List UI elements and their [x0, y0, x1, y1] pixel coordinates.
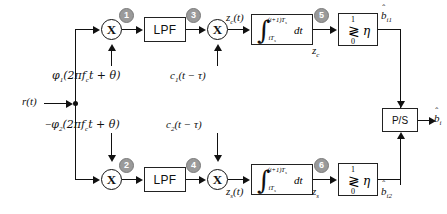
stage-marker-2: 2	[119, 158, 134, 173]
wire-cmp1-out	[378, 29, 400, 30]
arrow-ps-in-lower	[397, 132, 405, 139]
integ-upper-limit: (i+1)Ts	[268, 17, 287, 25]
code-upper-label: c1(t − τ)	[170, 70, 206, 84]
stage-marker-1: 1	[119, 8, 134, 23]
arrow-lower-mult2	[93, 176, 100, 184]
arrow-code2	[214, 155, 222, 162]
stage-marker-4: 4	[186, 158, 201, 173]
zc-label: zc	[312, 45, 319, 59]
wire-mult4-to-integ2	[228, 179, 244, 180]
junction-input-split	[73, 101, 78, 106]
wire-lpf1-to-mult3	[186, 29, 200, 30]
multiplier-4[interactable]: X	[207, 169, 228, 190]
integ-lower-block-upper-limit: (i+1)Ts	[268, 167, 287, 175]
multiplier-1[interactable]: X	[101, 19, 122, 40]
wire-mult3-to-integ1	[228, 29, 244, 30]
wire-lpf2-to-mult4	[186, 179, 200, 180]
wire-integ2-to-cmp2	[313, 179, 331, 180]
arrow-integ2-in	[243, 176, 250, 184]
wire-input	[44, 103, 66, 104]
wire-mult2-to-lpf2	[122, 179, 137, 180]
arrow-input	[66, 100, 73, 108]
arrow-integ1-in	[243, 26, 250, 34]
b-i1-label: ˆbi1	[381, 10, 392, 24]
stage-marker-3: 3	[186, 8, 201, 23]
zc-t-label: zc(t)	[226, 12, 244, 26]
stage-marker-6: 6	[314, 158, 329, 173]
wire-right-bus-lower	[400, 138, 401, 185]
code-lower-label: c2(t − τ)	[166, 119, 202, 133]
zs-t-label: zs(t)	[226, 186, 243, 200]
b-i2-label: ˆbi2	[381, 186, 392, 200]
arrow-mult3-in	[199, 26, 206, 34]
ps-block[interactable]: P/S	[382, 108, 418, 132]
multiplier-2[interactable]: X	[101, 169, 122, 190]
comparator-lower-expression: 1 ≷ 0 η	[348, 166, 370, 196]
integ-dt-upper: dt	[294, 24, 303, 36]
arrow-carrier1	[108, 44, 116, 51]
arrow-carrier2	[108, 155, 116, 162]
threshold-eta-lower: η	[363, 174, 370, 188]
arrow-cmp1-in	[330, 26, 337, 34]
stage-marker-5: 5	[314, 8, 329, 23]
integ-lower-block-lower-limit: iTs	[269, 185, 287, 193]
arrow-cmp2-in	[330, 176, 337, 184]
arrow-ps-in-upper	[397, 101, 405, 108]
threshold-eta-upper: η	[363, 24, 370, 38]
arrow-code1	[214, 44, 222, 51]
input-signal-label: r(t)	[22, 96, 37, 107]
wire-carrier2	[111, 133, 112, 155]
arrow-mult4-in	[199, 176, 206, 184]
wire-upper-to-mult1	[75, 29, 94, 30]
wire-code2	[217, 133, 218, 155]
carrier-upper-label: φ1(2πfct + θ)	[52, 70, 120, 84]
arrow-lpf2-in	[136, 176, 143, 184]
wire-carrier1	[111, 50, 112, 66]
multiplier-3[interactable]: X	[207, 19, 228, 40]
arrow-upper-mult1	[93, 26, 100, 34]
wire-integ1-to-cmp1	[313, 29, 331, 30]
arrow-lpf1-in	[136, 26, 143, 34]
carrier-lower-label: −φ2(2πfct + θ)	[45, 119, 120, 133]
integrator-lower-expression: ∫ (i+1)Ts iTs dt	[257, 167, 302, 193]
integrator-upper-expression: ∫ (i+1)Ts iTs dt	[257, 17, 302, 43]
b-i-output-label: ˆbi	[434, 113, 441, 127]
wire-lower-to-mult2	[75, 179, 94, 180]
wire-code1	[217, 50, 218, 66]
wire-mult1-to-lpf1	[122, 29, 137, 30]
lpf-upper-block[interactable]: LPF	[144, 17, 186, 42]
integ-lower-limit: iTs	[269, 35, 287, 43]
integ-dt-lower: dt	[294, 174, 303, 186]
lpf-lower-block[interactable]: LPF	[144, 167, 186, 192]
wire-right-bus-upper	[400, 29, 401, 108]
comparator-upper-expression: 1 ≷ 0 η	[348, 16, 370, 46]
zs-label: zs	[312, 186, 319, 200]
block-diagram-canvas: r(t) X φ1(2πfct + θ) 1 LPF 3 X c1(t − τ)	[0, 0, 447, 214]
